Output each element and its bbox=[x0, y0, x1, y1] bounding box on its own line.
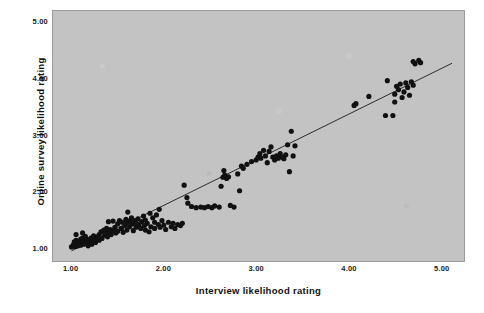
data-point bbox=[74, 232, 79, 237]
data-point bbox=[403, 80, 408, 85]
scatter-plot-figure: 1.002.003.004.005.00 1.002.003.004.005.0… bbox=[0, 0, 484, 313]
data-point bbox=[184, 195, 189, 200]
y-axis-title: Online survey likelihood rating bbox=[35, 6, 46, 258]
data-point bbox=[401, 89, 406, 94]
data-point bbox=[237, 188, 242, 193]
data-point bbox=[146, 229, 151, 234]
data-point bbox=[106, 219, 111, 224]
data-point bbox=[219, 184, 224, 189]
data-point bbox=[231, 204, 236, 209]
data-point bbox=[353, 101, 358, 106]
data-point bbox=[147, 211, 152, 216]
data-point bbox=[163, 227, 168, 232]
x-axis-title: Interview likelihood rating bbox=[52, 285, 465, 296]
data-point bbox=[152, 226, 157, 231]
data-point bbox=[157, 207, 162, 212]
data-point bbox=[292, 143, 297, 148]
data-point bbox=[241, 166, 246, 171]
x-axis-ticks: 1.002.003.004.005.00 bbox=[52, 264, 465, 278]
data-point bbox=[263, 153, 268, 158]
data-point bbox=[182, 183, 187, 188]
data-point bbox=[159, 218, 164, 223]
data-point bbox=[383, 113, 388, 118]
data-point bbox=[289, 129, 294, 134]
data-point bbox=[268, 144, 273, 149]
data-point bbox=[125, 210, 130, 215]
x-tick-label: 1.00 bbox=[63, 264, 78, 273]
data-point bbox=[392, 99, 397, 104]
data-point bbox=[366, 94, 371, 99]
plot-panel bbox=[52, 10, 465, 262]
data-point bbox=[80, 230, 85, 235]
data-point bbox=[396, 87, 401, 92]
data-point bbox=[398, 81, 403, 86]
data-point bbox=[283, 152, 288, 157]
data-point bbox=[244, 162, 249, 167]
x-tick-label: 3.00 bbox=[248, 264, 263, 273]
data-point bbox=[407, 93, 412, 98]
x-tick-label: 2.00 bbox=[156, 264, 171, 273]
data-point bbox=[212, 203, 217, 208]
data-point bbox=[170, 221, 175, 226]
data-point bbox=[194, 205, 199, 210]
data-point bbox=[287, 169, 292, 174]
data-point bbox=[258, 156, 263, 161]
data-point bbox=[405, 85, 410, 90]
data-point bbox=[291, 153, 296, 158]
data-point bbox=[285, 142, 290, 147]
data-point bbox=[110, 219, 115, 224]
data-point bbox=[166, 220, 171, 225]
data-point bbox=[385, 78, 390, 83]
data-point bbox=[226, 174, 231, 179]
data-point bbox=[411, 83, 416, 88]
data-point bbox=[390, 113, 395, 118]
x-tick-label: 5.00 bbox=[434, 264, 449, 273]
data-point bbox=[261, 148, 266, 153]
x-tick-label: 4.00 bbox=[341, 264, 356, 273]
data-point bbox=[154, 212, 159, 217]
data-point bbox=[392, 92, 397, 97]
data-point bbox=[249, 159, 254, 164]
data-point bbox=[217, 204, 222, 209]
data-point bbox=[267, 149, 272, 154]
data-point bbox=[161, 222, 166, 227]
data-points-layer bbox=[53, 11, 464, 261]
data-point bbox=[235, 171, 240, 176]
data-point bbox=[189, 204, 194, 209]
data-point bbox=[221, 168, 226, 173]
data-point bbox=[418, 60, 423, 65]
data-point bbox=[180, 221, 185, 226]
data-point bbox=[400, 95, 405, 100]
data-point bbox=[265, 160, 270, 165]
